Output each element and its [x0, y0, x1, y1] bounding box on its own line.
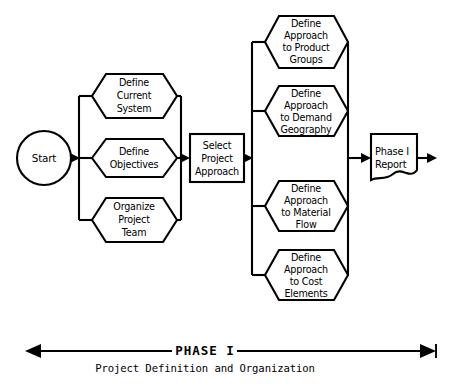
node-label-line: to Product	[282, 42, 330, 53]
node-label-line: Project	[118, 214, 150, 225]
node-label-line: Select	[203, 140, 232, 151]
right-node-define-approach-demand-geography: Define Approach to Demand Geography	[265, 86, 348, 136]
start-node: Start	[17, 131, 71, 185]
connector-right-group-to-report	[348, 153, 371, 163]
node-label-line: Define	[119, 146, 149, 157]
phase-title-label: PHASE I	[175, 343, 235, 358]
node-label-line: Approach	[195, 166, 239, 177]
hexagon-shape	[92, 139, 177, 177]
left-node-define-objectives: Define Objectives	[92, 139, 177, 177]
node-label-line: Geography	[280, 124, 332, 135]
connector-left-group-to-select-approach	[180, 153, 190, 163]
flowchart-diagram: Start Define Current S	[0, 0, 459, 389]
document-shape	[371, 134, 417, 180]
node-label-line: Objectives	[110, 159, 159, 170]
phase-span-caption: PHASE I Project Definition and Organizat…	[25, 343, 436, 375]
node-label-line: Groups	[289, 54, 322, 65]
select-project-approach-node: Select Project Approach	[190, 134, 244, 182]
arrowhead-icon	[427, 153, 437, 163]
right-node-define-approach-material-flow: Define Approach to Material Flow	[265, 181, 348, 231]
start-node-label: Start	[32, 152, 57, 164]
node-label-line: Report	[375, 159, 407, 170]
node-label-line: Approach	[284, 264, 328, 275]
node-label-line: Define	[291, 252, 321, 263]
node-label-line: Approach	[284, 100, 328, 111]
phase-i-report-node: Phase I Report	[371, 134, 417, 180]
connector-report-to-exit	[417, 153, 437, 163]
node-label-line: to Cost	[290, 276, 323, 287]
node-label-line: System	[117, 103, 152, 114]
node-label-line: Current	[117, 90, 152, 101]
arrowhead-icon	[180, 153, 190, 163]
phase-subtitle-label: Project Definition and Organization	[95, 362, 315, 374]
right-node-define-approach-cost-elements: Define Approach to Cost Elements	[265, 250, 348, 300]
arrowhead-icon	[361, 153, 371, 163]
left-node-define-current-system: Define Current System	[92, 74, 177, 118]
node-label-line: Organize	[113, 201, 155, 212]
node-label-line: Define	[291, 88, 321, 99]
left-node-organize-project-team: Organize Project Team	[92, 198, 177, 242]
node-label-line: Approach	[284, 195, 328, 206]
node-label-line: Approach	[284, 30, 328, 41]
flowchart-canvas: Start Define Current S	[0, 0, 459, 389]
arrowhead-icon	[25, 344, 41, 358]
node-label-line: Define	[291, 18, 321, 29]
node-label-line: to Material	[281, 207, 330, 218]
node-label-line: Phase I	[375, 146, 409, 157]
node-label-line: to Demand	[280, 112, 332, 123]
node-label-line: Project	[201, 153, 233, 164]
node-label-line: Elements	[284, 288, 327, 299]
node-label-line: Define	[119, 77, 149, 88]
right-node-define-approach-product-groups: Define Approach to Product Groups	[265, 16, 348, 68]
node-label-line: Define	[291, 183, 321, 194]
node-label-line: Team	[121, 227, 147, 238]
arrowhead-icon	[420, 344, 436, 358]
right-group-bracket	[252, 42, 348, 275]
node-label-line: Flow	[295, 219, 316, 230]
